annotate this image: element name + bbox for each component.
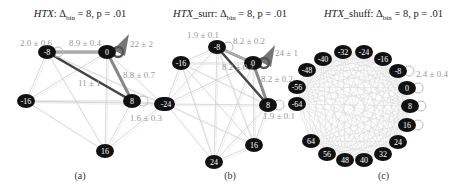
svg-text:24: 24 [394,138,402,147]
svg-text:-32: -32 [338,48,349,57]
svg-text:-16: -16 [176,59,187,68]
graph-node: 0 [398,81,416,95]
graph-node: -24 [355,45,373,59]
svg-text:32: 32 [379,150,387,159]
graph-node: -48 [298,63,316,77]
svg-text:16: 16 [403,121,411,130]
svg-text:8: 8 [408,102,412,111]
edge-weight-label: 22 ± 2 [130,39,153,49]
svg-text:8: 8 [266,101,270,110]
edge [105,101,132,151]
edge-weight-label: 8.2 ± 0.2 [233,36,265,46]
graph-node: -8 [389,64,407,78]
graph-node: -16 [172,56,190,70]
svg-text:-8: -8 [44,48,51,57]
edge-labels-layer: 2.0 ± 0.68.9 ± 0.422 ± 28.8 ± 0.711 ± 11… [20,30,448,123]
svg-text:0: 0 [105,48,109,57]
svg-text:-24: -24 [359,48,370,57]
edge-weight-label: 1.9 ± 0.1 [263,111,295,121]
edge [253,63,254,145]
svg-text:-16: -16 [378,55,389,64]
graph-node: 16 [96,144,114,158]
svg-text:-8: -8 [395,67,402,76]
graph-node: 8 [401,99,419,113]
graph-node: 32 [374,147,392,161]
edge [168,106,216,164]
graph-node: -24 [157,97,175,111]
edge-weight-label: 8.8 ± 0.7 [123,70,155,80]
edge [28,103,165,106]
edges-layer [26,47,410,164]
edge-weight-label: 1.6 ± 0.3 [130,113,162,123]
graph-node: 24 [205,155,223,169]
graph-node: 8 [259,98,277,112]
edge-weight-label: 8.9 ± 0.4 [69,38,101,48]
edge-weight-label: 24 ± 1 [275,48,298,58]
svg-text:-40: -40 [318,55,329,64]
edge [26,101,105,151]
edge-weight-label: 8.2 ± 0.2 [222,62,254,72]
svg-text:0: 0 [405,84,409,93]
edge [105,104,163,151]
graph-node: -16 [374,52,392,66]
svg-text:-64: -64 [292,100,303,109]
svg-text:-8: -8 [214,43,221,52]
edge-weight-label: 8.2 ± 0.2 [261,74,293,84]
edge-weight-label: 1.9 ± 0.1 [187,30,219,40]
svg-text:-48: -48 [302,66,313,75]
svg-text:-56: -56 [292,83,303,92]
graph-node: -40 [314,52,332,66]
network-graphs: -80-168-2416-8-160-2481624-32-24-40-16-4… [0,0,467,192]
edge-weight-label: 2.4 ± 0.4 [416,69,448,79]
svg-text:-16: -16 [21,97,32,106]
graph-node: 16 [398,118,416,132]
svg-text:-24: -24 [161,100,172,109]
edge-weight-label: 11 ± 1 [78,78,101,88]
svg-text:64: 64 [307,137,315,146]
svg-text:48: 48 [341,156,349,165]
edge [28,103,107,153]
edge [26,52,107,101]
graph-node: -8 [208,40,226,54]
graph-node: 56 [318,147,336,161]
graph-node: 8 [123,94,141,108]
svg-text:16: 16 [250,141,258,150]
graph-node: -32 [334,45,352,59]
svg-text:16: 16 [101,147,109,156]
edge [166,104,268,105]
graph-node: 48 [336,153,354,167]
graph-node: -64 [288,97,306,111]
edge [181,63,214,162]
edge [26,52,47,101]
edge [255,65,256,147]
svg-text:40: 40 [360,156,368,165]
edge [107,103,134,153]
graph-node: 40 [355,153,373,167]
edge-weight-label: 2.0 ± 0.6 [20,38,52,48]
graph-node: -16 [17,94,35,108]
graph-node: 24 [389,135,407,149]
graph-node: 16 [245,138,263,152]
svg-text:8: 8 [130,97,134,106]
edge [297,87,407,88]
svg-text:56: 56 [323,150,331,159]
graph-node: 64 [302,134,320,148]
svg-text:24: 24 [210,158,218,167]
